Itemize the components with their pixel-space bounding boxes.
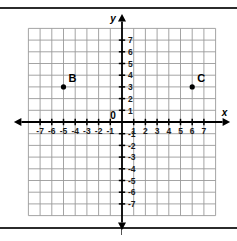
y-tick-label: 5 <box>128 59 133 69</box>
point-label-b: B <box>69 72 77 84</box>
y-tick-label: -5 <box>128 176 136 186</box>
x-tick-label: 5 <box>178 126 183 136</box>
axis-lines <box>14 14 230 230</box>
x-tick-label: -3 <box>83 126 91 136</box>
y-tick-label: -7 <box>128 199 136 209</box>
x-axis-label: x <box>221 107 228 118</box>
y-tick-label: -3 <box>128 152 136 162</box>
origin-label: 0 <box>110 110 116 121</box>
x-tick-label: 3 <box>155 126 160 136</box>
x-tick-label: -4 <box>71 126 79 136</box>
y-tick-label: -4 <box>128 164 136 174</box>
x-tick-label: 6 <box>190 126 195 136</box>
y-tick-label: -2 <box>128 141 136 151</box>
x-tick-label: -6 <box>48 126 56 136</box>
plotted-point-c <box>190 84 195 89</box>
coordinate-plane: -7-6-5-4-3-2-112345677654321-1-2-3-4-5-6… <box>0 0 237 241</box>
point-label-c: C <box>197 72 205 84</box>
x-tick-label: -2 <box>95 126 103 136</box>
x-tick-label: -7 <box>36 126 44 136</box>
y-tick-label: -1 <box>128 129 136 139</box>
y-tick-label: 2 <box>128 94 133 104</box>
y-tick-label: 4 <box>128 70 133 80</box>
x-tick-label: 2 <box>143 126 148 136</box>
y-tick-label: 6 <box>128 47 133 57</box>
x-tick-label: -1 <box>107 126 115 136</box>
x-tick-label: -5 <box>60 126 68 136</box>
y-tick-label: 3 <box>128 82 133 92</box>
y-tick-label: 1 <box>128 106 133 116</box>
y-axis-label: y <box>109 13 116 24</box>
x-tick-label: 7 <box>202 126 207 136</box>
plotted-point-b <box>61 84 66 89</box>
y-tick-label: 7 <box>128 35 133 45</box>
y-tick-label: -6 <box>128 187 136 197</box>
x-tick-label: 4 <box>166 126 171 136</box>
